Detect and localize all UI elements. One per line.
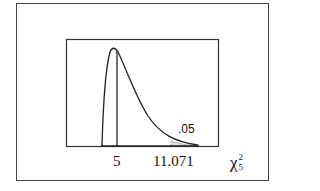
plot-frame	[67, 40, 219, 147]
tick-label-critical: 11.071	[153, 153, 194, 170]
axis-sup: 2	[239, 152, 244, 162]
tick-label-5: 5	[113, 153, 121, 170]
axis-label: χ25	[230, 153, 245, 173]
tail-area-label: .05	[178, 122, 195, 136]
axis-sub: 5	[239, 162, 244, 172]
axis-symbol: χ	[230, 153, 238, 172]
